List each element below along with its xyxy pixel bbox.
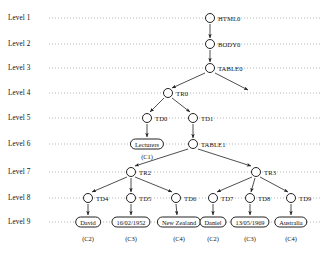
tree-node-tr0[interactable]	[163, 88, 173, 98]
leaf-box-leaf-nz[interactable]: New Zealand	[157, 217, 201, 228]
tree-node-body0[interactable]	[205, 39, 215, 49]
leaf-caption-leaf-lecturers: (C1)	[141, 153, 153, 160]
leaf-caption-leaf-aus: (C4)	[285, 235, 297, 242]
edge-table0-to-dangling	[215, 73, 248, 90]
tree-node-label-html0: HTML0	[218, 15, 240, 22]
tree-node-label-tr2: TR2	[139, 169, 151, 176]
tree-node-label-td5: TD5	[139, 195, 151, 202]
leaf-caption-leaf-dob2: (C3)	[244, 235, 256, 242]
tree-node-td4[interactable]	[83, 193, 93, 203]
tree-node-label-table1: TABLE1	[201, 141, 226, 148]
tree-node-label-td9: TD9	[299, 195, 311, 202]
leaf-box-leaf-david[interactable]: David	[75, 217, 101, 228]
leaf-caption-leaf-nz: (C4)	[173, 235, 185, 242]
level-label-l7: Level 7	[8, 168, 30, 176]
level-guide-lines	[49, 18, 322, 222]
leaf-caption-leaf-david: (C2)	[82, 235, 94, 242]
edge-tr0-to-td1	[172, 98, 190, 112]
level-label-l4: Level 4	[8, 89, 30, 97]
tree-node-td0[interactable]	[142, 113, 152, 123]
tree-node-label-body0: BODY0	[218, 41, 240, 48]
level-label-l5: Level 5	[8, 114, 30, 122]
tree-node-td1[interactable]	[188, 113, 198, 123]
tree-node-label-td6: TD6	[184, 195, 196, 202]
edge-table1-to-tr3	[198, 149, 251, 166]
leaf-box-leaf-lecturers[interactable]: Lecturers	[130, 139, 164, 150]
edge-tr2-to-td4	[92, 177, 127, 192]
leaf-box-leaf-dob1[interactable]: 16/02/1952	[111, 217, 150, 228]
tree-diagram: Level 1Level 2Level 3Level 4Level 5Level…	[0, 0, 326, 257]
level-label-l9: Level 9	[8, 218, 30, 226]
tree-node-td9[interactable]	[286, 193, 296, 203]
edge-tr0-to-td0	[150, 98, 164, 112]
tree-node-label-td0: TD0	[155, 115, 167, 122]
edge-tr3-to-td9	[260, 177, 288, 192]
tree-node-table0[interactable]	[205, 63, 215, 73]
level-label-l6: Level 6	[8, 140, 30, 148]
edge-tr3-to-td8	[251, 178, 255, 192]
leaf-box-leaf-daniel[interactable]: Daniel	[199, 217, 226, 228]
leaf-box-leaf-aus[interactable]: Australia	[274, 217, 307, 228]
tree-node-td5[interactable]	[126, 193, 136, 203]
tree-node-html0[interactable]	[205, 13, 215, 23]
level-label-l2: Level 2	[8, 40, 30, 48]
tree-node-tr3[interactable]	[251, 167, 261, 177]
tree-node-td7[interactable]	[208, 193, 218, 203]
edge-tr3-to-td7	[217, 177, 252, 192]
tree-node-label-td8: TD8	[258, 195, 270, 202]
leaf-caption-leaf-daniel: (C2)	[207, 235, 219, 242]
tree-node-label-td4: TD4	[96, 195, 108, 202]
level-label-l8: Level 8	[8, 194, 30, 202]
tree-node-label-tr3: TR3	[264, 169, 276, 176]
edge-tr2-to-td6	[135, 177, 172, 192]
tree-node-td8[interactable]	[245, 193, 255, 203]
edge-table0-to-tr0	[172, 73, 205, 88]
tree-node-tr2[interactable]	[126, 167, 136, 177]
tree-node-label-td7: TD7	[221, 195, 233, 202]
level-label-l1: Level 1	[8, 14, 30, 22]
tree-node-label-table0: TABLE0	[218, 65, 243, 72]
tree-node-table1[interactable]	[188, 139, 198, 149]
tree-node-label-tr0: TR0	[176, 90, 188, 97]
leaf-box-leaf-dob2[interactable]: 13/05/1969	[230, 217, 269, 228]
leaf-caption-leaf-dob1: (C3)	[125, 235, 137, 242]
level-label-l3: Level 3	[8, 64, 30, 72]
edge-td6-to-leaf_nz	[176, 204, 177, 215]
tree-node-label-td1: TD1	[201, 115, 213, 122]
tree-node-td6[interactable]	[171, 193, 181, 203]
